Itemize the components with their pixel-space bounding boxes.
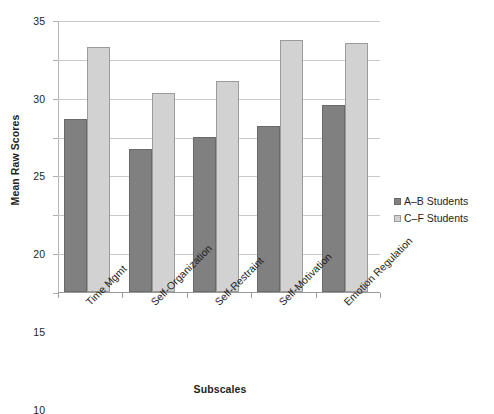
gridline — [58, 21, 380, 22]
legend-item-label: C–F Students — [404, 213, 468, 224]
y-tick-label: 10 — [33, 404, 45, 414]
bar-series-1-category-4 — [345, 43, 368, 292]
y-tick-label: 15 — [33, 327, 45, 338]
x-tick-mark — [122, 293, 123, 298]
x-tick-mark — [316, 293, 317, 298]
y-tick-mark: 5 — [53, 254, 58, 255]
legend-item-1[interactable]: C–F Students — [394, 210, 468, 227]
y-axis-title: Mean Raw Scores — [9, 100, 25, 220]
bar-series-0-category-0 — [64, 119, 87, 292]
y-tick-label: 30 — [33, 93, 45, 104]
legend-item-0[interactable]: A–B Students — [394, 193, 468, 210]
bar-series-0-category-1 — [129, 149, 152, 292]
plot-area: 05101520253035 — [58, 21, 380, 293]
legend-item-label: A–B Students — [404, 196, 468, 207]
bar-series-1-category-2 — [216, 81, 239, 292]
y-tick-mark: 10 — [53, 215, 58, 216]
y-tick-label: 35 — [33, 16, 45, 27]
bar-chart-figure: Mean Raw Scores 05101520253035 Time Mgmt… — [0, 0, 494, 414]
series-0-swatch — [394, 198, 401, 205]
y-tick-mark: 35 — [53, 21, 58, 22]
bar-series-1-category-0 — [87, 47, 110, 292]
series-1-swatch — [394, 215, 401, 222]
y-axis-line — [58, 21, 59, 293]
x-tick-mark — [380, 293, 381, 298]
x-tick-mark — [251, 293, 252, 298]
x-tick-mark — [58, 293, 59, 298]
bar-series-1-category-3 — [280, 40, 303, 292]
bar-series-1-category-1 — [152, 93, 175, 292]
bar-series-0-category-2 — [193, 137, 216, 292]
y-tick-mark: 25 — [53, 99, 58, 100]
y-tick-mark: 15 — [53, 176, 58, 177]
y-tick-label: 20 — [33, 249, 45, 260]
x-tick-mark — [187, 293, 188, 298]
x-axis-title: Subscales — [0, 383, 440, 395]
y-tick-mark: 20 — [53, 138, 58, 139]
chart-legend: A–B StudentsC–F Students — [394, 193, 468, 227]
y-tick-mark: 30 — [53, 60, 58, 61]
y-tick-label: 25 — [33, 171, 45, 182]
